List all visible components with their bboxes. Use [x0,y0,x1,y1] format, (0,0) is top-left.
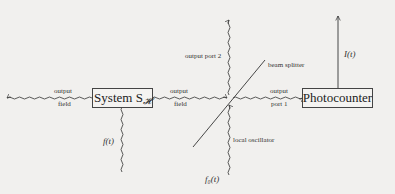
input-f-label: f(t) [103,137,114,146]
system-box: System S𝓗 [92,88,153,108]
left-output-wave [7,97,92,99]
port1-output-label: output [270,88,288,95]
photocounter-label: Photocounter [303,90,372,106]
port1-wave [233,97,303,99]
mid-output-wave [152,97,227,99]
system-subscript: 𝓗 [143,96,151,106]
photocounter-box: Photocounter [302,88,373,108]
mid-output-label: output [170,88,188,95]
f-input-wave [121,107,123,172]
port2-wave [228,20,230,95]
beam-splitter-line [193,60,265,147]
input-f0-label: f₀(t) [205,175,219,184]
port1-label: port 1 [271,101,288,108]
left-field-label: field [58,101,71,108]
beam-splitter-label: beam splitter [268,62,304,69]
left-output-label: output [54,88,72,95]
mid-field-label: field [174,101,187,108]
port2-label: output port 2 [185,53,221,60]
local-oscillator-label: local oscillator [233,137,274,144]
current-label: I(t) [344,50,356,59]
system-label: System S𝓗 [94,90,151,107]
local-oscillator-wave [228,105,230,175]
